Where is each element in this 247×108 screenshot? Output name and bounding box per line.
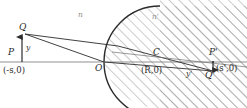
label-object-coordinate: (-s,0) bbox=[3, 66, 25, 75]
label-center-coordinate: (R,0) bbox=[141, 66, 162, 75]
label-image-height: y' bbox=[186, 70, 192, 78]
label-object-tip: Q bbox=[19, 23, 26, 32]
label-object-height: y bbox=[26, 44, 30, 52]
image-base-point bbox=[212, 61, 214, 63]
label-image-base: P' bbox=[209, 48, 218, 57]
label-vertex: O bbox=[95, 64, 102, 73]
label-index-left: n bbox=[78, 11, 83, 19]
label-image-coordinate: (s',0) bbox=[216, 64, 237, 73]
optics-ray-diagram: Q P y (-s,0) O C (R,0) P' Q' y' (s',0) n… bbox=[0, 0, 247, 108]
label-object-base: P bbox=[8, 48, 14, 57]
label-center: C bbox=[153, 48, 160, 57]
label-image-tip: Q' bbox=[205, 71, 215, 80]
label-index-right: n' bbox=[152, 13, 159, 21]
medium-hatched-region bbox=[104, 0, 247, 108]
